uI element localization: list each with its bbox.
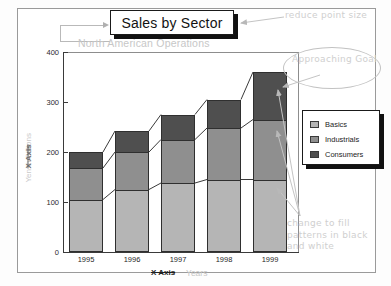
chart-subtitle: North American Operations [78, 37, 210, 49]
slide-canvas: Sales by Sector North American Operation… [0, 0, 391, 286]
y-axis-tick-label: 300 [37, 98, 59, 107]
x-axis-label-1997: 1997 [154, 255, 202, 264]
bar-segment-consumers-1999[interactable] [253, 72, 287, 120]
y-axis-tick-label: 400 [37, 48, 59, 57]
y-axis-title-struck: X Axis [24, 113, 33, 169]
legend-label: Basics [325, 120, 347, 129]
legend-label: Industrials [325, 135, 359, 144]
bar-segment-industrials-1999[interactable] [253, 120, 287, 180]
bar-segment-basics-1995[interactable] [69, 200, 103, 253]
bar-1998[interactable] [207, 52, 241, 252]
y-axis-tick-mark [63, 52, 68, 53]
bar-connector [149, 115, 161, 132]
y-axis-tick-label: 200 [37, 148, 59, 157]
bar-segment-industrials-1997[interactable] [161, 140, 195, 184]
bar-segment-basics-1997[interactable] [161, 183, 195, 252]
chart-legend[interactable]: BasicsIndustrialsConsumers [302, 110, 380, 165]
x-axis-label-1998: 1998 [200, 255, 248, 264]
legend-swatch-icon [310, 151, 319, 158]
bar-segment-consumers-1997[interactable] [161, 115, 195, 140]
bar-connector [241, 72, 253, 100]
title-leader-line-vertical [60, 26, 61, 42]
bar-1995[interactable] [69, 52, 103, 252]
bar-connector [103, 190, 115, 200]
bar-connector [195, 100, 207, 115]
bar-connector [149, 140, 161, 153]
bar-connector [195, 180, 207, 184]
bar-segment-industrials-1995[interactable] [69, 168, 103, 200]
annotation-change-fill-patterns: change to fill patterns in black and whi… [287, 218, 387, 253]
legend-swatch-icon [310, 121, 319, 128]
bar-segment-basics-1999[interactable] [253, 180, 287, 253]
x-axis-label-1996: 1996 [108, 255, 156, 264]
legend-item-consumers[interactable]: Consumers [310, 147, 379, 162]
y-axis-tick-label: 100 [37, 198, 59, 207]
bar-segment-industrials-1996[interactable] [115, 152, 149, 190]
annotation-reduce-point-size: reduce point size [285, 10, 385, 22]
legend-item-industrials[interactable]: Industrials [310, 132, 379, 147]
bar-segment-consumers-1998[interactable] [207, 100, 241, 129]
title-leader-arrow-icon [103, 22, 109, 28]
title-leader-line-top [60, 25, 105, 26]
y-axis-title-group: Yen in Billions X Axis [20, 96, 34, 186]
bar-connector [241, 120, 253, 129]
bar-segment-basics-1998[interactable] [207, 180, 241, 253]
x-axis-label-1999: 1999 [246, 255, 294, 264]
bar-segment-basics-1996[interactable] [115, 190, 149, 253]
x-axis-title-new: Years [186, 268, 207, 278]
bar-connector [103, 131, 115, 152]
bar-1996[interactable] [115, 52, 149, 252]
bar-connector [103, 152, 115, 168]
y-axis-tick-mark [63, 202, 68, 203]
y-axis-tick-mark [63, 102, 68, 103]
bar-1997[interactable] [161, 52, 195, 252]
y-axis-tick-label: 0 [37, 248, 59, 257]
bar-segment-industrials-1998[interactable] [207, 128, 241, 180]
x-axis-line [63, 252, 299, 253]
bar-segment-consumers-1996[interactable] [115, 131, 149, 152]
bar-connector [195, 128, 207, 140]
y-axis-tick-mark [63, 152, 68, 153]
legend-item-basics[interactable]: Basics [310, 117, 379, 132]
bar-segment-consumers-1995[interactable] [69, 152, 103, 168]
legend-swatch-icon [310, 136, 319, 143]
bar-1999[interactable] [253, 52, 287, 252]
x-axis-label-1995: 1995 [62, 255, 110, 264]
legend-label: Consumers [325, 150, 363, 159]
bar-connector [149, 183, 161, 190]
x-axis-title-struck: X Axis [151, 268, 175, 277]
annotation-approaching-goal: Approaching Goal [292, 54, 378, 66]
y-axis-tick-mark [63, 252, 68, 253]
chart-title-box[interactable]: Sales by Sector [110, 10, 234, 35]
chart-title: Sales by Sector [121, 15, 222, 31]
plot-area: 0100200300400 [63, 52, 297, 252]
